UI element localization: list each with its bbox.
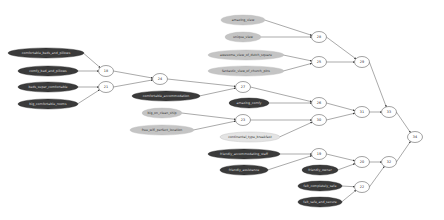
cluster-node-34: 34 [408, 132, 423, 143]
leaf-node-label: beds_super_comfortable [28, 85, 67, 89]
edge-l18-n22 [342, 190, 356, 202]
cluster-node-label: 26 [317, 101, 321, 105]
leaf-node-label: free_wifi_perfect_location [142, 128, 183, 132]
cluster-node-24: 24 [153, 74, 168, 85]
edge-n28-n29 [326, 37, 356, 59]
leaf-node-label: friendly_owner [308, 168, 332, 172]
leaf-node-felt-completely-safe: felt_completely_safe [298, 181, 342, 191]
edge-l4-n21 [77, 90, 99, 104]
leaf-node-label: friendly_accommodating_staff [220, 152, 269, 156]
cluster-node-26: 26 [312, 98, 327, 109]
cluster-node-19: 19 [312, 149, 327, 160]
leaf-node-label: felt_safe_and_secure [303, 200, 336, 204]
cluster-node-33: 33 [382, 107, 397, 118]
cluster-node-31: 31 [355, 107, 370, 118]
edge-l17-n22 [342, 186, 355, 187]
leaf-node-amazing-view: amazing_view [221, 15, 265, 25]
cluster-node-27: 27 [236, 82, 251, 93]
leaf-node-label: comfortable_beds_and_pillows [22, 51, 71, 55]
edge-l12-n23 [193, 121, 235, 130]
leaf-node-label: amazing_comfy [237, 101, 262, 105]
cluster-node-label: 33 [387, 110, 391, 114]
cluster-node-label: 29 [360, 60, 364, 64]
leaf-node-comfy-bed-and-pillows: comfy_bed_and_pillows [18, 66, 78, 76]
edge-l13-n30 [279, 122, 312, 137]
leaf-node-big-on-clean-ship: big_on_clean_ship [142, 108, 182, 118]
leaf-node-label: amazing_view [232, 18, 255, 22]
edge-n33-n34 [396, 112, 410, 133]
cluster-graph: comfortable_beds_and_pillowscomfy_bed_an… [0, 0, 444, 220]
leaf-node-awesome-view-of-dutch-square: awesome_view_of_dutch_square [208, 50, 284, 60]
edge-l8-n25 [283, 63, 311, 71]
cluster-node-label: 25 [317, 60, 321, 64]
edge-l5-n28 [265, 20, 312, 35]
cluster-node-label: 32 [387, 160, 391, 164]
cluster-node-label: 31 [360, 110, 364, 114]
leaf-node-label: fantastic_view_of_church_pins [222, 69, 270, 73]
edge-n19-n20 [326, 154, 354, 161]
leaf-node-friendly-owner: friendly_owner [302, 165, 338, 175]
cluster-node-21: 21 [99, 82, 114, 93]
leaf-node-label: big_on_clean_ship [148, 111, 177, 115]
cluster-node-label: 20 [360, 160, 364, 164]
leaf-node-label: comfortable_accommodation [143, 94, 190, 98]
cluster-node-label: 28 [317, 35, 321, 39]
leaf-node-comfortable-beds-and-pillows: comfortable_beds_and_pillows [8, 48, 84, 58]
edge-n29-n33 [369, 62, 386, 107]
cluster-node-label: 22 [360, 185, 364, 189]
leaf-node-beds-super-comfortable: beds_super_comfortable [18, 82, 78, 92]
cluster-node-label: 24 [158, 77, 162, 81]
leaf-node-unique-view: unique_view [225, 32, 261, 42]
edge-n30-n31 [326, 113, 354, 120]
leaf-node-label: friendly_assistance [229, 168, 259, 172]
cluster-node-label: 21 [104, 85, 108, 89]
leaf-node-comfortable-accommodation: comfortable_accommodation [132, 91, 200, 101]
leaf-node-amazing-comfy: amazing_comfy [229, 98, 269, 108]
cluster-node-23: 23 [236, 115, 251, 126]
cluster-node-label: 30 [317, 118, 321, 122]
cluster-node-25: 25 [312, 57, 327, 68]
edge-n24-n27 [167, 79, 235, 86]
cluster-node-label: 18 [104, 69, 108, 73]
edge-l16-n20 [338, 164, 355, 170]
cluster-node-label: 23 [241, 118, 245, 122]
leaf-node-label: comfy_bed_and_pillows [29, 69, 67, 73]
leaf-node-free-wifi-perfect-location: free_wifi_perfect_location [130, 125, 194, 135]
edge-n22-n32 [369, 166, 384, 187]
cluster-node-32: 32 [382, 157, 397, 168]
cluster-node-29: 29 [355, 57, 370, 68]
cluster-node-28: 28 [312, 32, 327, 43]
cluster-node-label: 19 [317, 152, 321, 156]
leaf-node-felt-safe-and-secure: felt_safe_and_secure [298, 197, 342, 207]
leaf-node-label: continental_type_breakfast [228, 135, 272, 139]
leaf-node-fantastic-view-of-church-pins: fantastic_view_of_church_pins [208, 66, 284, 76]
edge-n18-n24 [113, 71, 152, 78]
leaf-node-continental-type-breakfast: continental_type_breakfast [220, 132, 280, 142]
leaf-node-friendly-accommodating-staff: friendly_accommodating_staff [208, 149, 280, 159]
leaf-node-label: felt_completely_safe [304, 184, 337, 188]
leaf-node-friendly-assistance: friendly_assistance [220, 165, 268, 175]
cluster-node-20: 20 [355, 157, 370, 168]
edge-n32-n34 [396, 141, 410, 162]
leaf-node-big-comfortable-rooms: big_comfortable_rooms [18, 99, 78, 109]
edge-n26-n31 [326, 103, 354, 111]
cluster-node-22: 22 [355, 182, 370, 193]
edge-l7-n25 [283, 55, 311, 61]
edge-l9-n27 [199, 88, 235, 96]
edge-l11-n23 [182, 113, 236, 119]
edge-n21-n24 [113, 80, 152, 87]
leaf-node-label: awesome_view_of_dutch_square [220, 53, 272, 57]
edge-l1-n18 [83, 53, 100, 68]
cluster-node-18: 18 [99, 66, 114, 77]
leaf-node-label: big_comfortable_rooms [29, 102, 67, 106]
cluster-node-label: 34 [413, 135, 417, 139]
cluster-node-30: 30 [312, 115, 327, 126]
leaf-node-label: unique_view [233, 35, 253, 39]
cluster-node-label: 27 [241, 85, 245, 89]
leaf-nodes-layer: comfortable_beds_and_pillowscomfy_bed_an… [8, 15, 342, 207]
